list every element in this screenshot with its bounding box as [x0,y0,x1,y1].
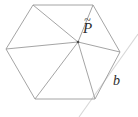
spoke-to-top-right [78,5,93,42]
figure-canvas [0,0,138,117]
spoke-to-right [78,42,120,52]
spoke-to-top-left [33,5,78,42]
spoke-to-bottom-right [78,42,95,99]
spoke-to-bottom-left [35,42,78,99]
geometry-figure: ~ P b [0,0,138,117]
hexagon-boundary [6,5,120,99]
interior-point-marker [77,41,80,44]
spoke-to-left [6,42,78,49]
